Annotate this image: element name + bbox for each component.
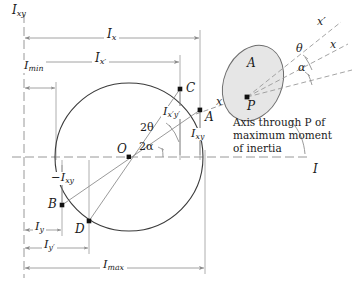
caption-line-1: Axis through P of [233, 116, 341, 129]
dimension-lines [25, 38, 204, 268]
dimension-label-Imin: Imin [22, 60, 46, 73]
point-label-A: A [205, 111, 214, 123]
marker-D [87, 219, 92, 224]
inset-ray-label-x: x [330, 39, 336, 50]
axis-label-horizontal: I [313, 163, 318, 175]
angle-label-theta: θ [296, 43, 303, 54]
inset-label-area-A: A [247, 57, 256, 69]
dimension-label-Imax: Imax [100, 259, 127, 272]
dimension-label-Ixp: Ix′ [92, 52, 109, 65]
extension-lines [56, 30, 205, 274]
dimension-label-Iyp: Iy′ [42, 239, 57, 252]
mohrs-circle-diagram: Ixy I Ix Ix′ Imin Iy Iy′ Imax Ixy Ix′y′ … [0, 0, 364, 282]
dimension-label-Iy: Iy [33, 221, 46, 234]
point-label-C: C [186, 82, 195, 94]
caption-line-2: maximum moment [233, 129, 341, 142]
ordinate-label-neg-Ixy: −Ixy [49, 172, 76, 185]
angle-arcs [158, 123, 179, 157]
ordinate-label-Ixpyp: Ix′y′ [161, 106, 182, 119]
point-label-D: D [75, 223, 85, 235]
angle-label-2alpha: 2α [139, 141, 153, 152]
ordinate-label-Ixy: Ixy [189, 128, 206, 141]
point-label-O: O [117, 143, 127, 155]
angle-label-2theta: 2θ [140, 122, 154, 133]
angle-label-alpha: α [298, 62, 305, 73]
point-label-B: B [48, 198, 57, 210]
marker-C [178, 87, 183, 92]
marker-O [127, 155, 131, 159]
caption-line-3: of inertia [233, 142, 341, 155]
axis-label-vertical: Ixy [12, 4, 26, 17]
inset-ray-label-xprime: x′ [317, 16, 326, 27]
marker-A [198, 108, 203, 113]
marker-B [60, 203, 65, 208]
ray-label-x: x [216, 96, 222, 107]
inset-label-point-P: P [247, 100, 255, 112]
caption-axis-through-P: Axis through P of maximum moment of iner… [233, 116, 341, 154]
dimension-label-Ix: Ix [104, 28, 119, 41]
